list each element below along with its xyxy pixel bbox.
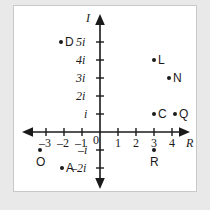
data-point-dot-N xyxy=(167,76,171,80)
data-point-dot-D xyxy=(59,40,63,44)
plot-area: I R 5i 4i 3i 2i i –i –2i –3 –2 –1 0 1 2 … xyxy=(13,5,197,192)
ytick-label-i: i xyxy=(84,108,87,120)
xtick-label-2: 2 xyxy=(133,137,139,149)
real-axis-left-arrow xyxy=(22,127,33,137)
xtick-label-1: 1 xyxy=(115,137,121,149)
data-point-label-O: O xyxy=(36,156,45,168)
imaginary-axis-up-arrow xyxy=(95,14,105,25)
data-point-label-Q: Q xyxy=(179,108,188,120)
imaginary-axis-ticks xyxy=(96,42,104,168)
data-point-label-A: A xyxy=(66,162,74,174)
data-point-label-C: C xyxy=(158,108,167,120)
data-point-dot-A xyxy=(60,166,64,170)
imaginary-axis-label: I xyxy=(86,12,90,24)
ytick-label-4i: 4i xyxy=(76,54,85,66)
ytick-label-3i: 3i xyxy=(76,72,85,84)
data-point-dot-O xyxy=(38,148,42,152)
data-point-label-N: N xyxy=(173,72,182,84)
data-point-dot-L xyxy=(152,58,156,62)
data-point-dot-C xyxy=(152,112,156,116)
data-point-dot-Q xyxy=(173,112,177,116)
data-point-label-L: L xyxy=(158,54,165,66)
ytick-label-5i: 5i xyxy=(76,36,85,48)
data-point-label-D: D xyxy=(65,36,74,48)
imaginary-axis-down-arrow xyxy=(95,178,105,189)
plot-surface: I R 5i 4i 3i 2i i –i –2i –3 –2 –1 0 1 2 … xyxy=(14,6,196,191)
real-axis-label: R xyxy=(186,137,193,149)
xtick-label-minus-1: –1 xyxy=(75,137,87,149)
xtick-label-4: 4 xyxy=(169,137,175,149)
xtick-label-zero: 0 xyxy=(93,134,99,146)
xtick-label-minus-2: –2 xyxy=(57,137,69,149)
real-axis-ticks xyxy=(46,128,172,136)
data-point-dot-R xyxy=(152,148,156,152)
ytick-label-2i: 2i xyxy=(76,90,85,102)
data-point-label-R: R xyxy=(150,156,159,168)
complex-plane-figure: I R 5i 4i 3i 2i i –i –2i –3 –2 –1 0 1 2 … xyxy=(0,0,210,210)
